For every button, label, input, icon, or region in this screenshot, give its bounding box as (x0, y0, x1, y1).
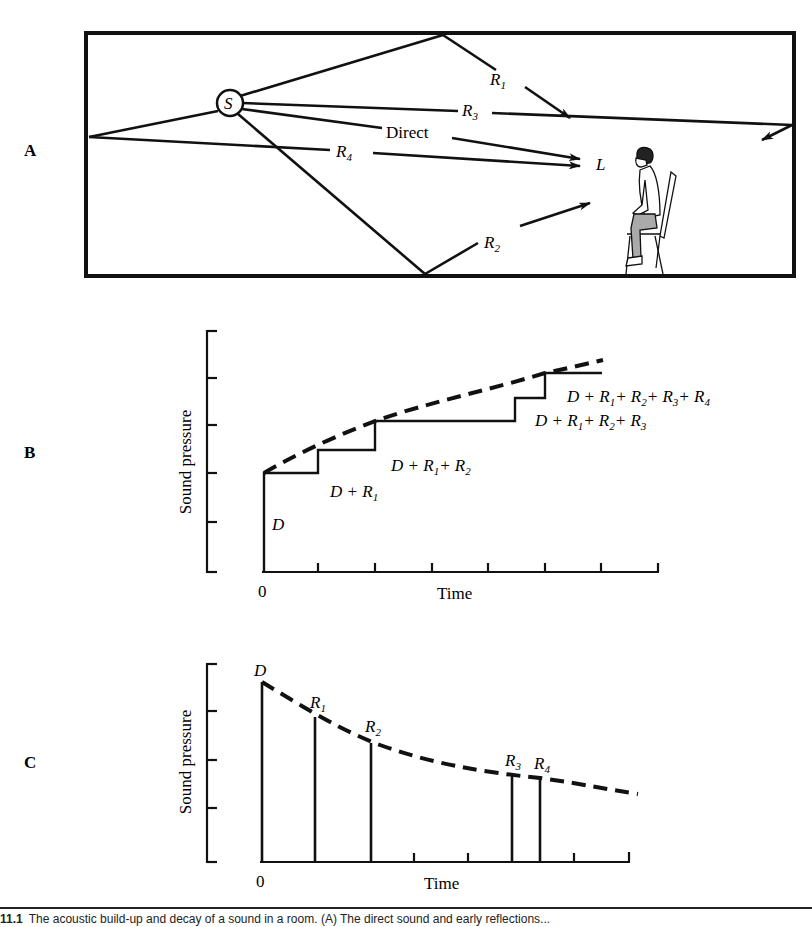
ray-r3-return (762, 125, 792, 140)
panel-letter-a: A (24, 141, 37, 160)
label-direct: Direct (386, 123, 429, 142)
room-outline (86, 33, 794, 276)
ray-r2-b (520, 203, 590, 226)
ray-direct-a (242, 109, 382, 128)
figure-canvas: A S R1 R3 Dir (0, 0, 812, 927)
listener-person-icon (626, 147, 676, 274)
ray-direct-b (452, 138, 580, 159)
ray-r3-b (492, 113, 792, 125)
caption-text: The acoustic build-up and decay of a sou… (29, 912, 550, 926)
caption-rule (0, 907, 812, 909)
step-label-d: D (271, 515, 285, 534)
impulse-label-r3: R3 (504, 751, 521, 772)
panel-b-ylabel: Sound pressure (176, 410, 195, 514)
label-r4: R4 (335, 142, 352, 163)
source-label: S (224, 94, 233, 113)
step-label-d-r1: D + R1 (329, 482, 378, 503)
ray-r1-incident (240, 35, 443, 96)
panel-b-x-axis (262, 563, 659, 572)
impulse-label-d: D (253, 661, 267, 680)
panel-c: C Sound pressure 0 Time (24, 661, 638, 893)
impulse-label-r2: R2 (364, 717, 381, 738)
sound-rays (89, 35, 792, 274)
panel-a: A S R1 R3 Dir (24, 33, 794, 276)
impulse-label-r4: R4 (533, 754, 550, 775)
ray-r3-a (242, 103, 458, 111)
step-label-d-r1-r2-r3: D + R1+ R2+ R3 (534, 411, 647, 432)
panel-c-xlabel: Time (424, 874, 459, 893)
panel-b-y-axis (207, 330, 217, 573)
label-r1: R1 (489, 70, 506, 91)
ray-r2-a (425, 243, 478, 274)
panel-b: B Sound pressure 0 Time (24, 330, 710, 603)
figure-caption: 11.1The acoustic build-up and decay of a… (0, 912, 812, 927)
panel-letter-c: C (24, 753, 36, 772)
ray-r4-incident (89, 111, 218, 137)
panel-c-ylabel: Sound pressure (176, 710, 195, 814)
ray-r4-a (89, 137, 330, 150)
listener-label: L (595, 155, 605, 174)
panel-c-y-axis (207, 663, 217, 863)
panel-letter-b: B (24, 443, 35, 462)
panel-b-origin: 0 (258, 582, 267, 601)
step-label-d-r1-r2-r3-r4: D + R1+ R2+ R3+ R4 (566, 387, 710, 408)
step-label-d-r1-r2: D + R1+ R2 (390, 456, 471, 477)
label-r3: R3 (461, 101, 478, 122)
caption-number: 11.1 (0, 912, 23, 926)
label-r2: R2 (483, 233, 500, 254)
ray-r1-reflect-a (443, 35, 496, 70)
panel-c-origin: 0 (256, 872, 265, 891)
panel-b-xlabel: Time (437, 584, 472, 603)
impulse-label-r1: R1 (309, 693, 326, 714)
